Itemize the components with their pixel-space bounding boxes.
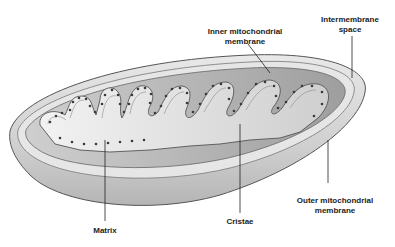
label-cristae: Cristae <box>215 217 265 227</box>
label-inner-membrane: Inner mitochondrial membrane <box>180 27 310 46</box>
label-intermembrane-space: Intermembrane space <box>305 15 395 34</box>
mitochondrion-diagram: Inner mitochondrial membrane Intermembra… <box>0 0 395 247</box>
label-matrix: Matrix <box>85 226 125 236</box>
label-outer-membrane: Outer mitochondrial membrane <box>280 196 390 215</box>
